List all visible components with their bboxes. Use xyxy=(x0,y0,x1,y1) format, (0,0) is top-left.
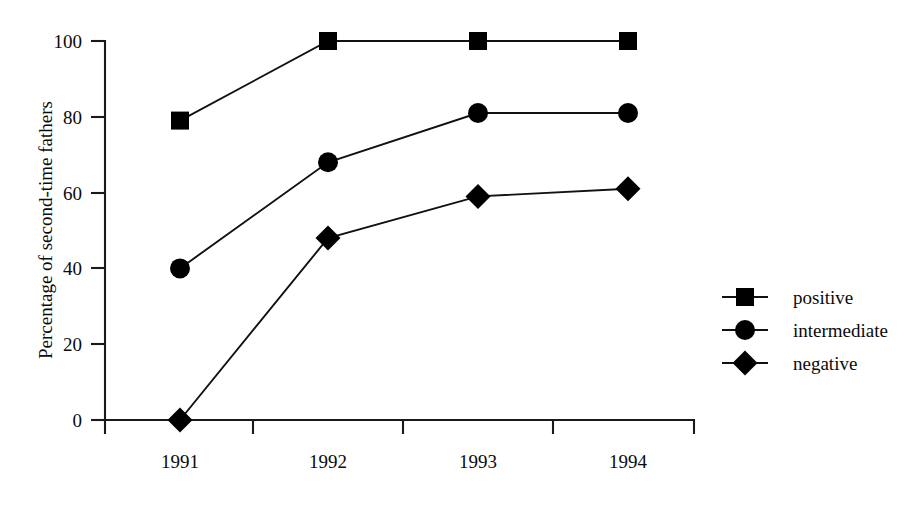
y-tick-label-40: 40 xyxy=(63,258,82,279)
legend-diamond-icon xyxy=(733,351,758,376)
data-point-intermediate-1993 xyxy=(468,103,488,123)
series-line-intermediate xyxy=(180,113,628,268)
x-tick-label-1992: 1992 xyxy=(309,451,347,472)
legend-item-positive: positive xyxy=(722,287,853,308)
y-tick-label-0: 0 xyxy=(73,410,83,431)
data-point-negative-1993 xyxy=(466,184,491,209)
series-line-negative xyxy=(180,189,628,420)
legend-label-negative: negative xyxy=(793,353,857,374)
data-point-positive-1991 xyxy=(171,112,189,130)
line-chart: Percentage of second-time fathers 100 80… xyxy=(0,0,911,507)
data-point-intermediate-1992 xyxy=(318,152,338,172)
data-point-negative-1992 xyxy=(316,226,341,251)
series-positive xyxy=(171,32,637,130)
y-tick-label-60: 60 xyxy=(63,183,82,204)
legend-circle-icon xyxy=(735,320,755,340)
y-tick-label-20: 20 xyxy=(63,334,82,355)
chart-figure: Percentage of second-time fathers 100 80… xyxy=(0,0,911,507)
y-axis-title: Percentage of second-time fathers xyxy=(35,101,56,359)
series-layer xyxy=(168,32,641,433)
data-point-intermediate-1994 xyxy=(618,103,638,123)
data-point-negative-1991 xyxy=(168,408,193,433)
data-point-negative-1994 xyxy=(616,176,641,201)
data-point-positive-1994 xyxy=(619,32,637,50)
y-tick-label-100: 100 xyxy=(54,31,83,52)
x-tick-label-1993: 1993 xyxy=(459,451,497,472)
legend-square-icon xyxy=(736,288,754,306)
data-point-positive-1993 xyxy=(469,32,487,50)
series-negative xyxy=(168,176,641,432)
legend-label-intermediate: intermediate xyxy=(793,320,888,341)
y-tick-label-80: 80 xyxy=(63,107,82,128)
series-line-positive xyxy=(180,41,628,121)
series-intermediate xyxy=(170,103,638,278)
legend-item-intermediate: intermediate xyxy=(722,320,888,341)
legend-item-negative: negative xyxy=(722,351,857,376)
x-tick-label-1994: 1994 xyxy=(609,451,648,472)
data-point-intermediate-1991 xyxy=(170,258,190,278)
x-tick-label-1991: 1991 xyxy=(161,451,199,472)
data-point-positive-1992 xyxy=(319,32,337,50)
legend-label-positive: positive xyxy=(793,287,853,308)
chart-legend: positiveintermediatenegative xyxy=(722,287,888,376)
